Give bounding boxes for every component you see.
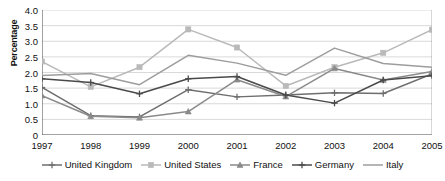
x-tick-label: 2004 (373, 140, 394, 151)
legend-swatch-square-icon (141, 160, 161, 170)
data-point-marker (429, 27, 432, 32)
y-tick-label: 3.5 (25, 20, 38, 31)
legend-label: Germany (315, 160, 354, 170)
x-tick-label: 2000 (178, 140, 199, 151)
legend-label: France (253, 160, 283, 170)
y-tick-label: 3.0 (25, 36, 38, 47)
line-chart: Percentage 00.51.01.52.02.53.03.54.01997… (0, 0, 445, 181)
plot-canvas (42, 10, 432, 135)
legend-swatch-plus-icon (42, 160, 62, 170)
legend-item-united-states[interactable]: United States (141, 160, 221, 170)
legend-label: United States (164, 160, 221, 170)
data-point-marker (42, 93, 45, 99)
plot-area: 00.51.01.52.02.53.03.54.0199719981999200… (42, 10, 432, 135)
legend-item-united-kingdom[interactable]: United Kingdom (42, 160, 133, 170)
data-point-marker (283, 83, 288, 88)
y-tick-label: 2.5 (25, 51, 38, 62)
y-tick-label: 0 (33, 130, 38, 141)
legend-item-france[interactable]: France (230, 160, 283, 170)
data-point-marker (149, 162, 154, 167)
data-point-marker (137, 65, 142, 70)
data-point-marker (234, 45, 239, 50)
y-tick-label: 0.5 (25, 114, 38, 125)
x-tick-label: 1997 (31, 140, 52, 151)
legend-item-italy[interactable]: Italy (363, 160, 403, 170)
data-point-marker (186, 27, 191, 32)
legend-label: United Kingdom (65, 160, 133, 170)
y-tick-label: 4.0 (25, 5, 38, 16)
x-tick-label: 2005 (421, 140, 442, 151)
legend-swatch-none-icon (363, 160, 383, 170)
y-tick-label: 1.5 (25, 83, 38, 94)
y-tick-label: 1.0 (25, 98, 38, 109)
x-tick-label: 1998 (80, 140, 101, 151)
chart-legend: United KingdomUnited StatesFranceGermany… (0, 160, 445, 170)
data-point-marker (42, 59, 45, 64)
x-tick-label: 1999 (129, 140, 150, 151)
x-tick-label: 2001 (226, 140, 247, 151)
y-tick-label: 2.0 (25, 67, 38, 78)
legend-swatch-plus-icon (292, 160, 312, 170)
legend-swatch-triangle-icon (230, 160, 250, 170)
x-tick-label: 2003 (324, 140, 345, 151)
x-tick-label: 2002 (275, 140, 296, 151)
legend-label: Italy (386, 160, 403, 170)
data-point-marker (381, 50, 386, 55)
y-axis-title: Percentage (9, 3, 19, 83)
legend-item-germany[interactable]: Germany (292, 160, 354, 170)
